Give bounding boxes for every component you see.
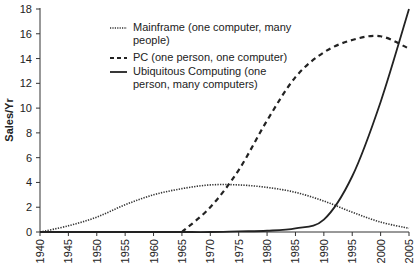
y-tick-label: 2 [26,201,32,213]
x-tick-label: 1985 [289,239,301,263]
legend-item-pc: PC (one person, one computer) [133,51,333,64]
legend-item-mainframe: Mainframe (one computer, many people) [133,21,333,47]
x-tick-label: 1960 [148,239,160,263]
legend-label: person, many computers) [133,78,333,91]
legend-label: Ubiquitous Computing (one [133,65,333,78]
y-axis-label: Sales/Yr [3,98,15,142]
x-tick-label: 1995 [346,239,358,263]
legend-label: Mainframe (one computer, many [133,21,333,34]
legend-item-uc: Ubiquitous Computing (one person, many c… [133,65,333,91]
y-tick-label: 6 [26,152,32,164]
y-tick-label: 12 [20,77,32,89]
y-tick-label: 14 [20,53,32,65]
y-tick-label: 0 [26,226,32,238]
y-tick-label: 4 [26,176,32,188]
y-tick-label: 10 [20,102,32,114]
legend-swatches [110,28,127,72]
x-tick-label: 1965 [176,239,188,263]
x-tick-label: 1970 [204,239,216,263]
legend-label: PC (one person, one computer) [133,51,333,64]
legend-label: people) [133,34,333,47]
y-tick-label: 8 [26,127,32,139]
x-tick-label: 1955 [119,239,131,263]
x-tick-label: 1945 [62,239,74,263]
x-tick-label: 1975 [233,239,245,263]
x-tick-label: 1940 [34,239,46,263]
x-tick-label: 1950 [91,239,103,263]
x-tick-label: 1980 [261,239,273,263]
x-tick-label: 2005 [403,239,415,263]
x-tick-label: 2000 [375,239,387,263]
y-tick-label: 16 [20,28,32,40]
y-tick-label: 18 [20,3,32,15]
x-tick-label: 1990 [318,239,330,263]
